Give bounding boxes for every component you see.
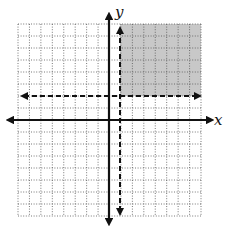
y-axis-label: y — [114, 3, 124, 21]
coordinate-plane: x y — [0, 0, 232, 232]
x-axis-label: x — [214, 111, 223, 129]
